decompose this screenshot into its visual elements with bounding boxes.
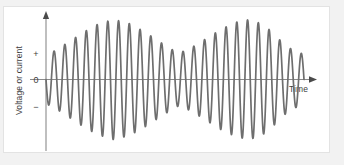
y-tick-label-plus: + — [33, 49, 38, 59]
y-tick-label-minus: − — [33, 102, 38, 112]
x-axis-arrow-icon — [309, 76, 317, 83]
figure-root: + 0 − Voltage or current Time — [0, 0, 344, 165]
y-tick-label-zero: 0 — [33, 75, 38, 85]
waveform-plot: + 0 − Voltage or current Time — [4, 7, 329, 152]
y-axis-arrow-icon — [43, 11, 49, 19]
y-axis-label: Voltage or current — [14, 46, 24, 115]
figure-panel: + 0 − Voltage or current Time — [3, 6, 330, 153]
